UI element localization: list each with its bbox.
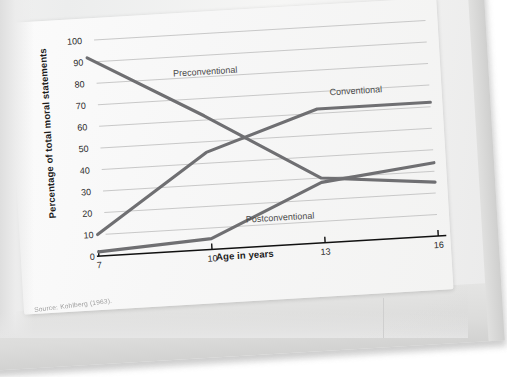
svg-text:30: 30 bbox=[81, 187, 92, 198]
svg-text:80: 80 bbox=[74, 79, 85, 90]
svg-text:70: 70 bbox=[76, 101, 87, 112]
series-label: Conventional bbox=[329, 84, 382, 97]
svg-text:90: 90 bbox=[73, 58, 84, 69]
svg-text:60: 60 bbox=[77, 122, 88, 133]
gridlines bbox=[94, 20, 437, 234]
cut-off-header-text: Fig. bbox=[0, 0, 11, 4]
y-axis-tick-labels: 1020304050607080901000 bbox=[67, 36, 95, 262]
svg-text:16: 16 bbox=[434, 240, 445, 251]
svg-text:50: 50 bbox=[78, 144, 89, 155]
figure-card: 1020304050607080901000 7101316 Preconven… bbox=[7, 0, 454, 315]
chart-svg: 1020304050607080901000 7101316 Preconven… bbox=[7, 0, 454, 315]
svg-text:10: 10 bbox=[83, 230, 94, 241]
svg-text:100: 100 bbox=[67, 36, 83, 47]
svg-text:20: 20 bbox=[82, 208, 93, 219]
scanned-page-surface: Fig. 1020304050607080901000 7101316 Prec… bbox=[0, 0, 505, 371]
page-divider-line bbox=[383, 298, 384, 338]
svg-text:40: 40 bbox=[79, 165, 90, 176]
svg-text:0: 0 bbox=[90, 252, 96, 262]
svg-text:7: 7 bbox=[97, 260, 103, 270]
line-chart: 1020304050607080901000 7101316 Preconven… bbox=[7, 0, 454, 315]
series-label: Preconventional bbox=[173, 65, 238, 79]
svg-text:13: 13 bbox=[320, 246, 331, 257]
